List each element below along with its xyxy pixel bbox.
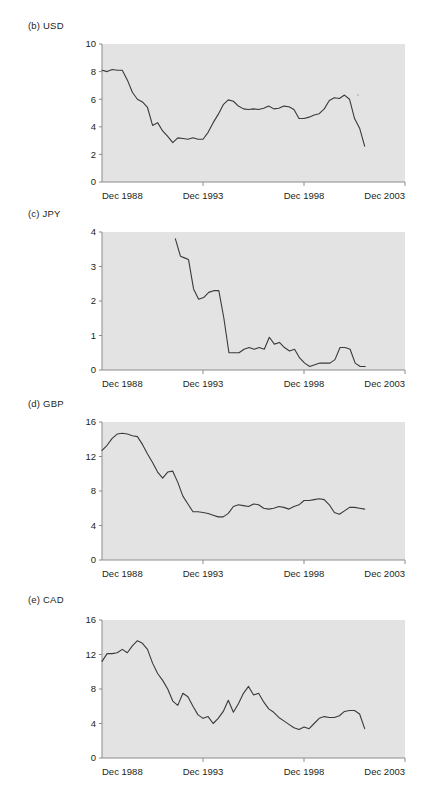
y-tick-label: 2 [91,295,96,306]
x-tick-label: Dec 2003 [364,766,405,777]
x-tick-label: Dec 1993 [183,190,224,201]
x-tick-label: Dec 1988 [102,190,143,201]
y-tick-label: 8 [91,485,96,496]
chart-usd: 0246810Dec 1988Dec 1993Dec 1998Dec 2003 [0,20,444,205]
chart-jpy: 01234Dec 1988Dec 1993Dec 1998Dec 2003 [0,208,444,393]
plot-area-background [102,620,405,758]
plot-area-background [102,44,405,182]
x-tick-label: Dec 1998 [284,378,325,389]
x-tick-label: Dec 1998 [284,568,325,579]
x-tick-label: Dec 1993 [183,766,224,777]
y-tick-label: 4 [91,121,96,132]
page-speck [357,94,359,96]
y-tick-label: 8 [91,66,96,77]
x-tick-label: Dec 1993 [183,378,224,389]
y-tick-label: 4 [91,520,96,531]
y-tick-label: 0 [91,554,96,565]
y-tick-label: 12 [85,451,96,462]
y-tick-label: 8 [91,683,96,694]
plot-area-background [102,422,405,560]
y-tick-label: 4 [91,226,96,237]
x-tick-label: Dec 2003 [364,568,405,579]
chart-panel-jpy: (c) JPY01234Dec 1988Dec 1993Dec 1998Dec … [0,208,444,393]
y-tick-label: 16 [85,614,96,625]
x-tick-label: Dec 1988 [102,378,143,389]
y-tick-label: 10 [85,38,96,49]
x-tick-label: Dec 1998 [284,766,325,777]
y-tick-label: 0 [91,752,96,763]
x-tick-label: Dec 2003 [364,378,405,389]
x-tick-label: Dec 2003 [364,190,405,201]
y-tick-label: 2 [91,149,96,160]
y-tick-label: 0 [91,176,96,187]
y-tick-label: 12 [85,649,96,660]
y-tick-label: 4 [91,718,96,729]
chart-cad: 0481216Dec 1988Dec 1993Dec 1998Dec 2003 [0,594,444,784]
chart-panel-usd: (b) USD0246810Dec 1988Dec 1993Dec 1998De… [0,20,444,205]
y-tick-label: 16 [85,416,96,427]
y-tick-label: 1 [91,330,96,341]
chart-panel-cad: (e) CAD0481216Dec 1988Dec 1993Dec 1998De… [0,594,444,784]
y-tick-label: 6 [91,94,96,105]
x-tick-label: Dec 1998 [284,190,325,201]
x-tick-label: Dec 1988 [102,568,143,579]
x-tick-label: Dec 1993 [183,568,224,579]
chart-panel-gbp: (d) GBP0481216Dec 1988Dec 1993Dec 1998De… [0,398,444,583]
chart-gbp: 0481216Dec 1988Dec 1993Dec 1998Dec 2003 [0,398,444,583]
y-tick-label: 0 [91,364,96,375]
y-tick-label: 3 [91,261,96,272]
x-tick-label: Dec 1988 [102,766,143,777]
